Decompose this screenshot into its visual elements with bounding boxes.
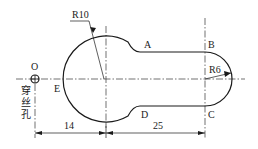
point-a-label: A [144,39,152,50]
dimension-14: 14 [64,120,74,131]
point-o-label: O [31,61,38,72]
hole-label-1: 穿 [21,84,31,96]
dimension-25: 25 [153,120,163,131]
r6-arrow-icon [224,71,231,77]
hole-label-2: 丝 [21,97,31,108]
point-c-label: C [208,109,215,120]
point-d-label: D [141,109,148,120]
point-e-label: E [54,83,60,94]
r6-label: R6 [209,64,221,75]
point-b-label: B [208,39,215,50]
hole-label-3: 孔 [21,109,31,120]
r10-label: R10 [72,9,89,20]
technical-drawing: R10 R6 14 25 O A B C D E 穿 丝 孔 [0,0,258,149]
r10-arrow-icon [90,27,96,33]
